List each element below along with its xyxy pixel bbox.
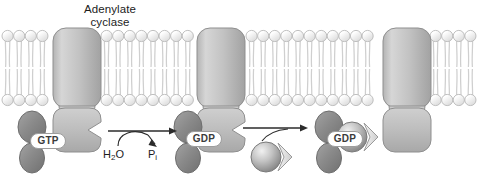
- title-line-2: cyclase: [90, 16, 129, 28]
- substrate-label-water: H2O: [103, 148, 124, 163]
- beta-gamma-join-curve: [262, 129, 288, 141]
- water-h: H: [103, 148, 111, 160]
- water-in-curve: [118, 132, 148, 146]
- cyclase-cytoplasmic-domain: [383, 108, 431, 152]
- product-label-phosphate: Pi: [148, 148, 157, 163]
- g-protein-subunits: [18, 108, 431, 173]
- adenylate-cyclase-1: [53, 28, 101, 120]
- nucleotide-label-gdp: GDP: [186, 131, 222, 147]
- adenylate-cyclase-proteins: [53, 28, 431, 120]
- phosphate-subscript: i: [155, 153, 157, 162]
- beta-gamma-subunit: [251, 142, 292, 172]
- nucleotide-label-gdp: GDP: [327, 131, 363, 147]
- gtp-hydrolysis-arrow: [108, 127, 177, 134]
- title-line-1: Adenylate: [84, 3, 136, 15]
- page-title: Adenylatecyclase: [50, 3, 170, 29]
- reassociation-arrow: [243, 124, 308, 131]
- figure-canvas: Adenylatecyclase H2O Pi GTPGDPGDP: [0, 0, 480, 187]
- adenylate-cyclase-3: [383, 28, 431, 120]
- nucleotide-label-gtp: GTP: [30, 133, 66, 149]
- water-o: O: [115, 148, 124, 160]
- adenylate-cyclase-2: [197, 28, 245, 120]
